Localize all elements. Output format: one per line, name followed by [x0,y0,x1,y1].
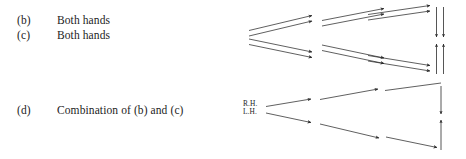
arrow-diagram [0,0,466,159]
lower-left-hand-segment-1 [266,113,311,123]
lower-left-hand-segment-3 [386,137,437,148]
upper-vertical-arrow-down [437,7,444,37]
upper-branch-b-segment-2 [322,45,384,64]
upper-branch-a-segment-1 [249,16,312,37]
upper-branch-a-segment-3 [368,6,430,21]
upper-branch-b-segment-3 [368,56,430,72]
lower-right-hand-segment-2 [320,89,378,100]
upper-branch-a-segment-2 [322,9,384,27]
lower-right-hand-segment-3 [385,83,441,91]
upper-vertical-arrow-up [437,44,444,74]
upper-branch-b-segment-1 [249,39,312,58]
lower-left-hand-segment-2 [320,124,379,138]
lower-right-hand-segment-1 [266,99,311,107]
